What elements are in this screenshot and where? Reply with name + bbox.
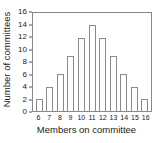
bar-slot	[97, 13, 108, 111]
y-tick-label: 10	[18, 46, 27, 54]
bar-slot	[55, 13, 66, 111]
x-tick-label: 12	[99, 113, 107, 123]
bar-9	[67, 56, 74, 111]
bar-14	[120, 74, 127, 111]
bar-slot	[66, 13, 77, 111]
x-tick-label: 14	[120, 113, 128, 123]
bar-slot	[118, 13, 129, 111]
x-tick-label: 7	[47, 113, 51, 123]
x-tick-label: 11	[88, 113, 95, 123]
bar-slot	[108, 13, 119, 111]
x-tick-label: 16	[142, 113, 150, 123]
bar-15	[131, 87, 138, 112]
histogram-chart: Number of committees 0246810121416 67891…	[0, 0, 163, 143]
bar-7	[46, 87, 53, 112]
bar-6	[36, 99, 43, 111]
x-axis-tick-labels: 678910111213141516	[32, 113, 152, 123]
y-axis-tick-labels: 0246810121416	[14, 12, 29, 112]
x-tick-slot: 15	[130, 113, 141, 123]
y-axis-title: Number of committees	[0, 0, 14, 118]
x-tick-slot: 12	[97, 113, 108, 123]
bar-slot	[87, 13, 98, 111]
bar-slot	[139, 13, 150, 111]
y-axis-title-text: Number of committees	[2, 11, 13, 107]
bar-slot	[76, 13, 87, 111]
x-tick-slot: 16	[140, 113, 151, 123]
bar-12	[99, 38, 106, 112]
y-tick-label: 0	[23, 108, 27, 116]
bar-16	[141, 99, 148, 111]
x-tick-slot: 10	[76, 113, 87, 123]
x-tick-slot: 11	[87, 113, 98, 123]
x-tick-label: 15	[131, 113, 139, 123]
x-tick-slot: 6	[33, 113, 44, 123]
bar-slot	[45, 13, 56, 111]
y-tick-label: 2	[23, 96, 27, 104]
y-tick-label: 16	[18, 8, 27, 16]
y-tick-label: 12	[18, 33, 27, 41]
x-tick-label: 13	[110, 113, 118, 123]
y-tick-label: 14	[18, 21, 27, 29]
bar-11	[89, 25, 96, 111]
x-tick-label: 6	[36, 113, 40, 123]
bar-slot	[129, 13, 140, 111]
x-tick-slot: 9	[65, 113, 76, 123]
x-axis-title: Members on committee	[14, 124, 159, 135]
y-tick-label: 4	[23, 83, 27, 91]
bar-8	[57, 74, 64, 111]
bar-13	[110, 56, 117, 111]
y-tick-label: 6	[23, 71, 27, 79]
bar-series	[33, 13, 151, 111]
bar-10	[78, 38, 85, 112]
x-tick-slot: 8	[54, 113, 65, 123]
x-tick-slot: 7	[44, 113, 55, 123]
x-tick-label: 9	[69, 113, 73, 123]
x-tick-label: 8	[58, 113, 62, 123]
x-tick-label: 10	[77, 113, 85, 123]
x-tick-slot: 14	[119, 113, 130, 123]
x-tick-slot: 13	[108, 113, 119, 123]
plot-area	[32, 12, 152, 112]
y-tick-label: 8	[23, 58, 27, 66]
bar-slot	[34, 13, 45, 111]
